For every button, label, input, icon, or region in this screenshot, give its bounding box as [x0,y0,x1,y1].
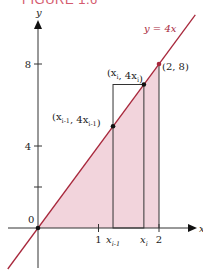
point-label: (xi-1, 4xi-1) [52,111,101,128]
line-y-equals-4x [8,15,196,269]
data-point [111,124,116,129]
data-point [157,62,162,67]
point-label: (2, 8) [162,61,189,72]
x-tick-label: xi-1 [106,234,120,248]
x-axis-label: x [199,223,203,234]
x-tick-label: 1 [95,234,101,245]
y-axis-arrow-icon [34,20,42,29]
point-label: (xi, 4xi) [107,67,143,84]
x-tick-label: xi [140,234,148,248]
line-label: y = 4x [143,23,177,34]
y-axis-label: y [35,7,42,18]
y-tick-label: 8 [25,59,31,70]
x-tick-label: 2 [156,234,162,245]
x-axis-arrow-icon [188,224,197,232]
figure-diagram: xy1xi-1xi2480y = 4x(xi-1, 4xi-1)(xi, 4xi… [0,0,203,279]
y-tick-label: 4 [25,141,31,152]
data-point [36,226,41,231]
origin-label: 0 [28,214,34,225]
